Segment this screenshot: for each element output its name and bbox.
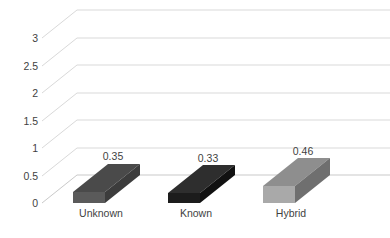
y-tick-label: 0 (32, 197, 38, 209)
column-chart-3d: 3 2.5 2 1.5 1 0.5 0 0.35 (0, 0, 390, 238)
y-tick-label: 1 (32, 142, 38, 154)
gridline-3 (42, 10, 390, 38)
gridline-1 (42, 120, 390, 148)
gridline-2 (42, 65, 390, 93)
data-label-hybrid: 0.46 (293, 145, 314, 157)
bar-front-face (168, 193, 200, 203)
x-tick-label-unknown: Unknown (79, 207, 123, 219)
y-tick-label: 0.5 (23, 170, 38, 182)
gridline-1-5 (42, 93, 390, 121)
data-label-unknown: 0.35 (103, 150, 124, 162)
y-tick-label: 2 (32, 87, 38, 99)
y-axis-labels: 3 2.5 2 1.5 1 0.5 0 (23, 32, 38, 209)
x-tick-label-hybrid: Hybrid (276, 207, 307, 219)
y-tick-label: 1.5 (23, 115, 38, 127)
bar-known[interactable] (168, 165, 235, 203)
bar-front-face (263, 186, 295, 203)
bar-front-face (73, 192, 105, 203)
bar-unknown[interactable] (73, 164, 140, 203)
y-tick-label: 2.5 (23, 60, 38, 72)
data-label-known: 0.33 (198, 152, 219, 164)
bar-hybrid[interactable] (263, 158, 330, 203)
y-tick-label: 3 (32, 32, 38, 44)
x-axis-labels: Unknown Known Hybrid (79, 207, 306, 219)
gridline-2-5 (42, 38, 390, 66)
x-tick-label-known: Known (180, 207, 212, 219)
chart-container: 3 2.5 2 1.5 1 0.5 0 0.35 (0, 0, 390, 238)
